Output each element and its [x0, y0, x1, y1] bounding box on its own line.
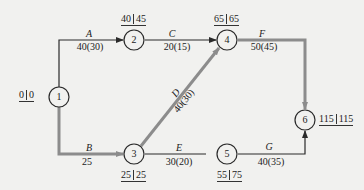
node-5-late: 75: [230, 170, 242, 180]
activity-g-name: G: [265, 142, 272, 152]
node-3-late: 25: [134, 170, 146, 180]
node-3-early: 25: [121, 170, 134, 180]
activity-f-name: F: [259, 29, 265, 39]
network-diagram: 1 2 3 4 5 6 0 0 40 45 25 25 65 65 55 75 …: [0, 0, 364, 190]
node-2-times: 40 45: [121, 14, 146, 26]
activity-e-name: E: [176, 143, 182, 153]
node-6-early: 115: [319, 114, 337, 124]
node-1-late: 0: [27, 90, 34, 100]
node-4-times: 65 65: [214, 14, 239, 26]
node-1-label: 1: [57, 92, 62, 102]
activity-e-duration: 30(20): [166, 157, 193, 167]
node-1-early: 0: [19, 90, 27, 100]
activity-a-duration: 40(30): [77, 42, 104, 52]
activity-c-duration: 20(15): [164, 42, 191, 52]
node-4-late: 65: [227, 14, 239, 24]
activity-f-duration: 50(45): [251, 42, 278, 52]
node-4-early: 65: [214, 14, 227, 24]
activity-b-duration: 25: [82, 157, 92, 167]
node-6-label: 6: [303, 115, 308, 125]
node-3-label: 3: [132, 149, 137, 159]
node-4-label: 4: [225, 35, 230, 45]
activity-b-name: B: [86, 143, 92, 153]
node-2-late: 45: [134, 14, 146, 24]
node-3-times: 25 25: [121, 170, 146, 182]
activity-g-duration: 40(35): [258, 157, 285, 167]
node-5-label: 5: [225, 149, 230, 159]
node-2-label: 2: [132, 35, 137, 45]
activity-c-name: C: [169, 29, 176, 39]
activity-a-name: A: [86, 29, 92, 39]
node-5-times: 55 75: [217, 170, 242, 182]
node-6-late: 115: [337, 114, 354, 124]
node-5-early: 55: [217, 170, 230, 180]
node-2-early: 40: [121, 14, 134, 24]
node-1-times: 0 0: [19, 90, 34, 102]
node-6-times: 115 115: [319, 114, 353, 126]
